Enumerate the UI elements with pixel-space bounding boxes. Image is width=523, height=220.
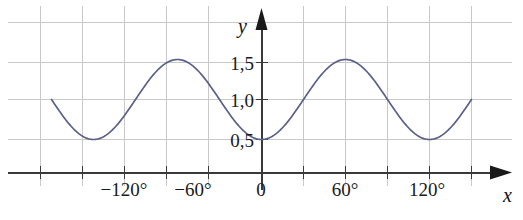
- x-tick-label-0: 0: [256, 180, 266, 199]
- y-tick-label-1.0: 1,0: [230, 91, 254, 110]
- vertical-gridlines: [41, 6, 472, 186]
- x-axis-label: x: [503, 185, 512, 205]
- x-tick-label--120: −120°: [101, 180, 148, 199]
- x-tick-label-120: 120°: [409, 180, 445, 199]
- y-tick-label-0.5: 0,5: [230, 131, 254, 150]
- x-axis: [8, 166, 512, 180]
- horizontal-gridlines: [8, 23, 512, 140]
- trig-function-graph: −120° −60° 0 60° 120° 1,5 1,0 0,5 y x: [0, 0, 523, 220]
- x-axis-arrowhead: [490, 166, 512, 180]
- x-tick-label-60: 60°: [332, 180, 359, 199]
- y-tick-label-1.5: 1,5: [230, 54, 254, 73]
- y-axis-label: y: [238, 16, 247, 36]
- x-tick-label--60: −60°: [174, 180, 211, 199]
- y-axis-arrowhead: [256, 8, 268, 30]
